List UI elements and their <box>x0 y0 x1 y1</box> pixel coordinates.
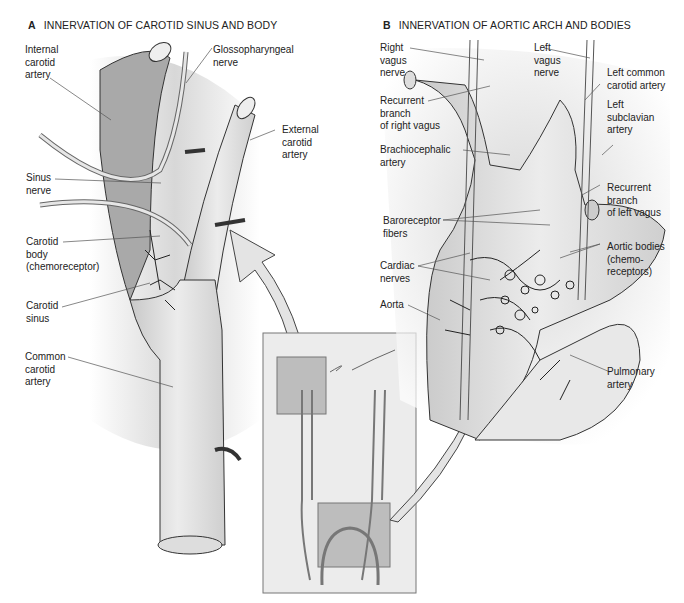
label-carotid-body: Carotid body (chemoreceptor) <box>26 236 99 274</box>
label-aorta: Aorta <box>380 299 404 312</box>
label-carotid-sinus: Carotid sinus <box>26 300 58 325</box>
label-glossopharyngeal-nerve: Glossopharyngeal nerve <box>213 44 294 69</box>
label-recurrent-branch-right-vagus: Recurrent branch of right vagus <box>380 95 440 133</box>
label-aortic-bodies: Aortic bodies (chemo- receptors) <box>607 241 665 279</box>
label-internal-carotid-artery: Internal carotid artery <box>25 44 58 82</box>
label-common-carotid-artery: Common carotid artery <box>25 351 66 389</box>
label-sinus-nerve: Sinus nerve <box>26 172 51 197</box>
label-external-carotid-artery: External carotid artery <box>282 124 319 162</box>
label-brachiocephalic-artery: Brachiocephalic artery <box>380 144 451 169</box>
label-left-subclavian-artery: Left subclavian artery <box>607 99 654 137</box>
label-recurrent-branch-left-vagus: Recurrent branch of left vagus <box>607 182 661 220</box>
label-pulmonary-artery: Pulmonary artery <box>607 366 655 391</box>
label-cardiac-nerves: Cardiac nerves <box>380 260 414 285</box>
label-right-vagus-nerve: Right vagus nerve <box>380 42 407 80</box>
label-left-common-carotid-artery: Left common carotid artery <box>607 67 665 92</box>
label-left-vagus-nerve: Left vagus nerve <box>534 42 561 80</box>
label-baroreceptor-fibers: Baroreceptor fibers <box>383 215 441 240</box>
anatomy-illustration <box>0 0 684 603</box>
